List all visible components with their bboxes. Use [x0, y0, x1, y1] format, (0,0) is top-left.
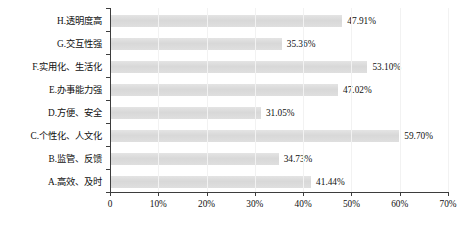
bar-value-label: 53.10% [372, 61, 401, 73]
x-axis-tick [351, 192, 352, 196]
x-axis-tick-label: 50% [343, 197, 360, 211]
category-label: G.交互性强 [57, 38, 102, 50]
horizontal-bar-chart: H.透明度高G.交互性强F.实用化、生活化E.办事能力强D.方便、安全C.个性化… [0, 0, 472, 234]
bar [111, 61, 367, 73]
x-axis-tick [255, 192, 256, 196]
bar-value-label: 34.73% [284, 153, 313, 165]
x-gridline [158, 8, 159, 192]
x-axis-tick [158, 192, 159, 196]
x-axis-tick [110, 192, 111, 196]
x-gridline [448, 8, 449, 192]
bar-value-label: 41.44% [316, 176, 345, 188]
y-axis-tick [106, 77, 110, 78]
y-axis-tick [106, 100, 110, 101]
x-axis-tick-labels: 010%20%30%40%50%60%70% [110, 197, 448, 211]
x-gridline [207, 8, 208, 192]
x-axis-tick [207, 192, 208, 196]
x-gridline [303, 8, 304, 192]
y-axis-tick [106, 54, 110, 55]
y-axis-tick [106, 123, 110, 124]
bar [111, 107, 261, 119]
x-axis-tick-label: 30% [246, 197, 263, 211]
bar-value-label: 31.05% [266, 107, 295, 119]
x-gridline [351, 8, 352, 192]
bar [111, 176, 311, 188]
y-axis-tick [106, 146, 110, 147]
category-axis-labels: H.透明度高G.交互性强F.实用化、生活化E.办事能力强D.方便、安全C.个性化… [0, 8, 106, 192]
category-label: E.办事能力强 [49, 84, 102, 96]
category-label: C.个性化、人文化 [30, 130, 102, 142]
y-axis-tick [106, 192, 110, 193]
bar-value-label: 35.36% [287, 38, 316, 50]
bar [111, 15, 342, 27]
x-axis-tick-label: 20% [198, 197, 215, 211]
x-axis-tick-label: 70% [439, 197, 456, 211]
y-axis-tick [106, 8, 110, 9]
category-label: A.高效、及时 [48, 176, 102, 188]
bar-value-label: 47.02% [343, 84, 372, 96]
plot-area: 47.91%35.36%53.10%47.02%31.05%59.70%34.7… [110, 8, 448, 192]
y-axis-tick [106, 31, 110, 32]
x-axis-tick [303, 192, 304, 196]
x-axis-line [110, 192, 448, 193]
x-axis-tick [400, 192, 401, 196]
bar [111, 38, 282, 50]
y-axis-tick [106, 169, 110, 170]
x-axis-tick [448, 192, 449, 196]
x-gridline [255, 8, 256, 192]
x-axis-tick-label: 0 [108, 197, 113, 211]
category-label: F.实用化、生活化 [32, 61, 102, 73]
x-axis-tick-label: 10% [150, 197, 167, 211]
x-axis-tick-label: 40% [295, 197, 312, 211]
x-axis-tick-label: 60% [391, 197, 408, 211]
category-label: B.监管、反馈 [48, 153, 102, 165]
bar [111, 153, 279, 165]
category-label: D.方便、安全 [48, 107, 102, 119]
x-gridline [400, 8, 401, 192]
bar-value-label: 59.70% [404, 130, 433, 142]
category-label: H.透明度高 [57, 15, 102, 27]
